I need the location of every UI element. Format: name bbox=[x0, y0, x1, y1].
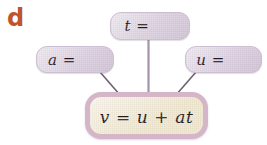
equation-box-label: v = u + at bbox=[100, 107, 194, 127]
variable-box-a[interactable]: a = bbox=[36, 46, 114, 73]
variable-box-a-label: a = bbox=[48, 51, 76, 69]
variable-box-u[interactable]: u = bbox=[185, 46, 262, 73]
variable-box-t[interactable]: t = bbox=[110, 12, 190, 40]
figure-panel: d t = a = u = v = u + at bbox=[0, 0, 267, 145]
variable-box-t-label: t = bbox=[125, 17, 150, 35]
texture-overlay bbox=[111, 13, 189, 39]
variable-box-u-label: u = bbox=[196, 51, 225, 69]
equation-box[interactable]: v = u + at bbox=[85, 92, 208, 139]
